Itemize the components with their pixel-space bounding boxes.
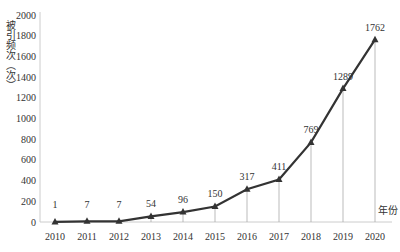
y-tick-label: 2000 bbox=[16, 10, 36, 21]
citation-line-chart: 0200400600800100012001400160018002000 20… bbox=[0, 0, 400, 252]
y-tick-label: 1000 bbox=[16, 113, 36, 124]
data-label: 7 bbox=[85, 199, 90, 210]
x-tick-label: 2014 bbox=[173, 231, 193, 242]
y-tick-label: 1800 bbox=[16, 30, 36, 41]
y-tick-label: 0 bbox=[31, 217, 36, 228]
triangle-marker bbox=[372, 36, 379, 43]
y-axis: 0200400600800100012001400160018002000 bbox=[16, 10, 40, 228]
data-label: 317 bbox=[240, 171, 255, 182]
data-label: 7 bbox=[117, 199, 122, 210]
y-axis-label: 被引频次（次） bbox=[5, 19, 16, 90]
x-tick-label: 2012 bbox=[109, 231, 129, 242]
data-label: 1762 bbox=[365, 22, 385, 33]
data-label: 96 bbox=[178, 194, 188, 205]
x-tick-label: 2013 bbox=[141, 231, 161, 242]
data-label: 1289 bbox=[333, 71, 353, 82]
x-axis-label: 年份 bbox=[378, 204, 398, 216]
data-labels: 177549615031741176912891762 bbox=[53, 22, 386, 210]
y-tick-label: 1200 bbox=[16, 92, 36, 103]
y-tick-label: 400 bbox=[21, 175, 36, 186]
y-tick-label: 600 bbox=[21, 154, 36, 165]
x-tick-label: 2016 bbox=[237, 231, 257, 242]
data-label: 54 bbox=[146, 198, 156, 209]
y-tick-label: 200 bbox=[21, 196, 36, 207]
data-label: 411 bbox=[272, 161, 287, 172]
x-axis: 2010201120122013201420152016201720182019… bbox=[40, 222, 392, 242]
x-tick-label: 2018 bbox=[301, 231, 321, 242]
x-tick-label: 2015 bbox=[205, 231, 225, 242]
x-tick-label: 2017 bbox=[269, 231, 289, 242]
x-tick-label: 2020 bbox=[365, 231, 385, 242]
x-tick-label: 2019 bbox=[333, 231, 353, 242]
data-label: 150 bbox=[208, 188, 223, 199]
data-label: 769 bbox=[304, 124, 319, 135]
y-tick-label: 800 bbox=[21, 134, 36, 145]
x-tick-label: 2010 bbox=[45, 231, 65, 242]
y-tick-label: 1400 bbox=[16, 72, 36, 83]
data-label: 1 bbox=[53, 199, 58, 210]
y-tick-label: 1600 bbox=[16, 51, 36, 62]
x-tick-label: 2011 bbox=[77, 231, 97, 242]
